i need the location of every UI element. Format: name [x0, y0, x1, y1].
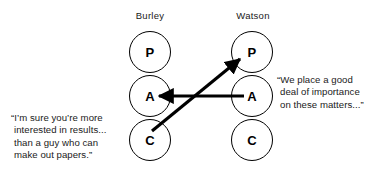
- ego-state-circle-burley-child: C: [129, 119, 171, 161]
- pac-transaction-diagram: Burley Watson P A C P A C Burley Adult (…: [0, 0, 383, 171]
- ego-state-letter: P: [146, 46, 155, 59]
- column-label-watson: Watson: [229, 10, 277, 21]
- ego-state-circle-watson-parent: P: [231, 31, 273, 73]
- ego-state-letter: C: [247, 134, 257, 147]
- ego-state-circle-watson-child: C: [231, 119, 273, 161]
- quote-text-burley: “I’m sure you’re more interested in resu…: [11, 112, 130, 161]
- ego-state-circle-burley-parent: P: [129, 31, 171, 73]
- ego-state-letter: A: [247, 90, 257, 103]
- ego-state-letter: C: [145, 134, 155, 147]
- ego-state-circle-watson-adult: A: [231, 75, 273, 117]
- ego-state-circle-burley-adult: A: [129, 75, 171, 117]
- ego-state-letter: P: [248, 46, 257, 59]
- column-label-burley: Burley: [127, 10, 173, 21]
- quote-text-watson: “We place a good deal of importance on t…: [277, 74, 383, 111]
- ego-state-letter: A: [145, 90, 155, 103]
